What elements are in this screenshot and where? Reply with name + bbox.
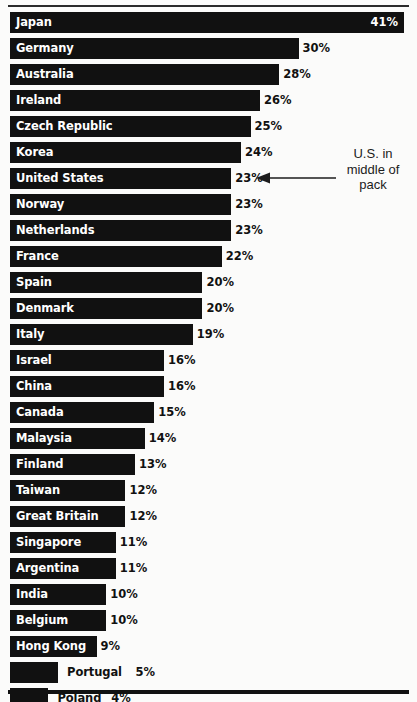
bar-value-label: 14% xyxy=(149,428,177,449)
bottom-divider-rule xyxy=(8,690,409,694)
bar-row[interactable]: Israel16% xyxy=(0,350,417,376)
bar-value-label: 24% xyxy=(245,142,273,163)
bar-value-label: 23% xyxy=(235,194,263,215)
bar-value-label: 16% xyxy=(168,350,196,371)
bar-row[interactable]: Malaysia14% xyxy=(0,428,417,454)
bar-value-label: 25% xyxy=(255,116,283,137)
bar-category-label: China xyxy=(16,376,52,397)
bar-value-label: 9% xyxy=(101,636,121,657)
bar-row[interactable]: Netherlands23% xyxy=(0,220,417,246)
bar-row[interactable]: France22% xyxy=(0,246,417,272)
top-divider-rule xyxy=(8,5,409,7)
bar-row[interactable]: China16% xyxy=(0,376,417,402)
bar-value-label: 19% xyxy=(197,324,225,345)
bar-value-label: 15% xyxy=(158,402,186,423)
bar-row[interactable]: Japan41% xyxy=(0,12,417,38)
bar-value-label: 22% xyxy=(226,246,254,267)
bar-category-label: Canada xyxy=(16,402,64,423)
bar-value-label: 20% xyxy=(206,272,234,293)
bar-row[interactable]: Canada15% xyxy=(0,402,417,428)
bar-category-label: Norway xyxy=(16,194,64,215)
bar-category-label: France xyxy=(16,246,59,267)
annotation-line-1: U.S. in xyxy=(333,146,413,162)
bar-row[interactable]: Denmark20% xyxy=(0,298,417,324)
bar-row[interactable]: Portugal5% xyxy=(0,662,417,688)
bar-row[interactable]: Australia28% xyxy=(0,64,417,90)
bar-value-label: 26% xyxy=(264,90,292,111)
bar-category-label: Germany xyxy=(16,38,74,59)
bar xyxy=(10,662,58,683)
bar-value-label: 13% xyxy=(139,454,167,475)
bar-row[interactable]: Great Britain12% xyxy=(0,506,417,532)
bar-list: Japan41%Germany30%Australia28%Ireland26%… xyxy=(0,12,417,702)
bar-category-label: Australia xyxy=(16,64,74,85)
bar-category-label: Korea xyxy=(16,142,53,163)
left-arrow-icon xyxy=(256,171,336,185)
bar-category-label: Spain xyxy=(16,272,52,293)
bar-value-label: 23% xyxy=(235,220,263,241)
bar-value-label: 11% xyxy=(120,558,148,579)
bar-category-label: Denmark xyxy=(16,298,74,319)
annotation-line-3: pack xyxy=(333,177,413,193)
bar-category-label: United States xyxy=(16,168,103,189)
bar-row[interactable]: Ireland26% xyxy=(0,90,417,116)
bar-row[interactable]: Germany30% xyxy=(0,38,417,64)
bar-value-label: 10% xyxy=(110,610,138,631)
bar-row[interactable]: Finland13% xyxy=(0,454,417,480)
bar-value-label: 11% xyxy=(120,532,148,553)
bar-category-label: Finland xyxy=(16,454,63,475)
bar-value-label: 20% xyxy=(206,298,234,319)
bar-value-label: 12% xyxy=(129,480,157,501)
annotation-callout: U.S. in middle of pack xyxy=(333,146,413,193)
bar-category-label: Malaysia xyxy=(16,428,72,449)
bar-row[interactable]: Belgium10% xyxy=(0,610,417,636)
bar-category-label: Belgium xyxy=(16,610,68,631)
bar-category-label: India xyxy=(16,584,48,605)
bar-value-label: 12% xyxy=(129,506,157,527)
bar-category-label: Great Britain xyxy=(16,506,99,527)
bar-value-label: 16% xyxy=(168,376,196,397)
annotation-line-2: middle of xyxy=(333,162,413,178)
bar-value-label: 5% xyxy=(136,662,156,683)
bar-value-label: 10% xyxy=(110,584,138,605)
bar-row[interactable]: Norway23% xyxy=(0,194,417,220)
bar-category-label: Taiwan xyxy=(16,480,60,501)
bar-row[interactable]: India10% xyxy=(0,584,417,610)
bar-category-label: Japan xyxy=(16,12,52,33)
bar-row[interactable]: Italy19% xyxy=(0,324,417,350)
bar-value-label: 41% xyxy=(370,12,398,33)
bar-category-label: Argentina xyxy=(16,558,79,579)
bar-category-label: Italy xyxy=(16,324,44,345)
bar-category-label: Ireland xyxy=(16,90,61,111)
bar-category-label: Portugal xyxy=(67,662,122,683)
bar-row[interactable]: Hong Kong9% xyxy=(0,636,417,662)
bar-row[interactable]: Czech Republic25% xyxy=(0,116,417,142)
bar-row[interactable]: Singapore11% xyxy=(0,532,417,558)
bar-chart-page: Japan41%Germany30%Australia28%Ireland26%… xyxy=(0,0,417,702)
bar-row[interactable]: Spain20% xyxy=(0,272,417,298)
bar-category-label: Netherlands xyxy=(16,220,94,241)
bar-value-label: 28% xyxy=(283,64,311,85)
bar-row[interactable]: Taiwan12% xyxy=(0,480,417,506)
bar-row[interactable]: Argentina11% xyxy=(0,558,417,584)
bar-category-label: Israel xyxy=(16,350,52,371)
bar-category-label: Singapore xyxy=(16,532,81,553)
bar-category-label: Czech Republic xyxy=(16,116,113,137)
bar-category-label: Hong Kong xyxy=(16,636,86,657)
bar xyxy=(10,12,404,33)
bar-value-label: 30% xyxy=(303,38,331,59)
